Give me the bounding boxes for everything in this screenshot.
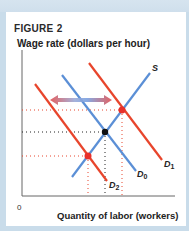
labor-market-chart: S D1 D0 D2 [0,0,189,231]
equilibrium-point-e1 [119,107,126,114]
demand-curve-d1 [89,63,162,160]
label-s: S [152,63,158,73]
label-d2: D2 [109,180,120,191]
label-d1: D1 [164,159,175,170]
supply-curve-s [72,73,150,177]
demand-shift-arrow [50,95,112,105]
equilibrium-point-e0 [102,129,108,135]
equilibrium-point-e2 [85,153,92,160]
demand-curve-d0 [62,75,136,171]
label-d0: D0 [137,169,148,180]
